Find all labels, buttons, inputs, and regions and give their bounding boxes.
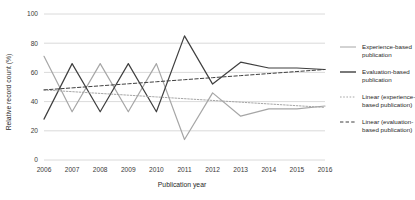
legend-label-line2[interactable]: publication [362, 76, 392, 83]
legend-label[interactable]: Linear (evaluation- [362, 118, 413, 125]
x-tick-label: 2006 [37, 166, 52, 173]
line-chart-canvas: 020406080100 200620072008200920102011201… [0, 0, 415, 200]
y-axis-title: Relative record count (%) [5, 54, 13, 131]
x-tick-label: 2007 [65, 166, 80, 173]
legend-label-line2[interactable]: based publication) [362, 101, 412, 108]
x-tick-label: 2010 [149, 166, 164, 173]
legend-label[interactable]: Experience-based [362, 43, 412, 50]
x-tick-label: 2012 [205, 166, 220, 173]
legend-label[interactable]: Linear (experience- [362, 93, 415, 100]
x-axis-title: Publication year [158, 181, 207, 189]
y-tick-label: 100 [27, 10, 38, 17]
y-tick-label: 80 [31, 40, 39, 47]
y-tick-label: 0 [34, 156, 38, 163]
legend-label-line2[interactable]: publication [362, 51, 392, 58]
y-tick-label: 40 [31, 98, 39, 105]
x-tick-label: 2014 [261, 166, 276, 173]
x-tick-label: 2016 [318, 166, 333, 173]
y-tick-label: 20 [31, 127, 39, 134]
chart-figure: 020406080100 200620072008200920102011201… [0, 0, 415, 200]
legend-label[interactable]: Evaluation-based [362, 68, 410, 75]
x-tick-label: 2013 [233, 166, 248, 173]
legend-label-line2[interactable]: based publication) [362, 126, 412, 133]
x-tick-label: 2015 [290, 166, 305, 173]
y-tick-label: 60 [31, 69, 39, 76]
x-tick-label: 2011 [177, 166, 192, 173]
x-tick-label: 2008 [93, 166, 108, 173]
x-tick-label: 2009 [121, 166, 136, 173]
